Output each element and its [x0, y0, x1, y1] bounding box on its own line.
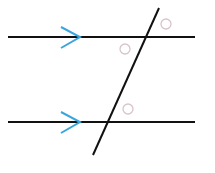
angle-marker-top-right: [161, 19, 171, 29]
angle-marker-top-inner-left: [120, 44, 130, 54]
parallel-lines-diagram: [0, 0, 215, 173]
angle-marker-bottom-upper-right: [123, 104, 133, 114]
transversal-line: [93, 8, 159, 155]
